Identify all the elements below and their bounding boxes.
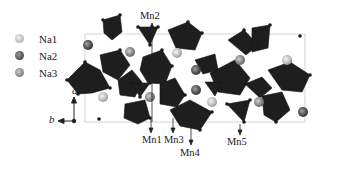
axis-indicator [58,97,77,124]
axis-label-a: a [72,84,78,96]
label-mn2: Mn2 [140,10,160,21]
mno-polyhedra [67,15,310,130]
label-mn5: Mn5 [227,136,247,147]
label-mn1: Mn1 [142,134,162,145]
axis-label-b: b [49,113,55,125]
label-mn3: Mn3 [164,134,184,145]
label-mn4: Mn4 [180,147,200,158]
